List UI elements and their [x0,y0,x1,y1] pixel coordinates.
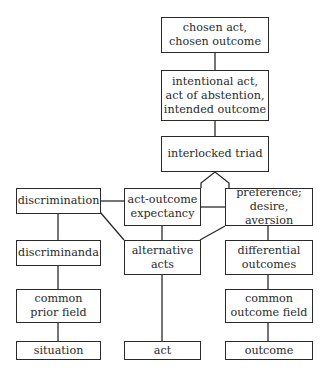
node-situation: situation [16,341,101,360]
node-intentional-act: intentional act, act of abstention, inte… [161,70,269,121]
node-act: act [124,341,201,360]
node-discrimination: discrimination [16,188,101,214]
node-preference: preference; desire, aversion [225,188,313,226]
node-interlocked-triad: interlocked triad [161,136,269,172]
node-differential-outcomes: differential outcomes [225,240,313,275]
node-act-outcome-expectancy: act-outcome expectancy [124,188,201,226]
node-common-outcome-field: common outcome field [225,289,313,323]
node-chosen-act-outcome: chosen act, chosen outcome [161,17,269,53]
node-discriminanda: discriminanda [16,240,101,266]
node-common-prior-field: common prior field [16,289,101,323]
decision-flow-diagram: chosen act, chosen outcome intentional a… [0,0,331,379]
node-alternative-acts: alternative acts [124,240,201,275]
node-outcome: outcome [225,341,313,360]
